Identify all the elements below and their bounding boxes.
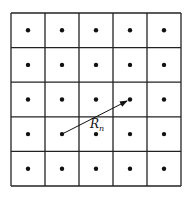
lattice-point	[128, 97, 132, 101]
lattice-point	[128, 167, 132, 171]
lattice-point	[26, 63, 30, 67]
lattice-point	[162, 97, 166, 101]
lattice-point	[94, 63, 98, 67]
lattice-point	[60, 28, 64, 32]
lattice-point	[128, 132, 132, 136]
lattice-point	[162, 132, 166, 136]
lattice-point	[60, 63, 64, 67]
lattice-point	[26, 167, 30, 171]
lattice-point	[94, 28, 98, 32]
lattice-point	[60, 167, 64, 171]
lattice-point	[128, 28, 132, 32]
lattice-point	[94, 167, 98, 171]
lattice-point	[162, 28, 166, 32]
lattice-point	[60, 97, 64, 101]
lattice-point	[162, 167, 166, 171]
lattice-point	[26, 28, 30, 32]
lattice-point	[26, 97, 30, 101]
lattice-points	[26, 28, 166, 171]
vector-label: Rn	[89, 117, 104, 133]
lattice-point	[128, 63, 132, 67]
lattice-point	[94, 132, 98, 136]
lattice-point	[94, 97, 98, 101]
lattice-point	[26, 132, 30, 136]
lattice-point	[162, 63, 166, 67]
lattice-diagram: Rn	[0, 0, 190, 197]
